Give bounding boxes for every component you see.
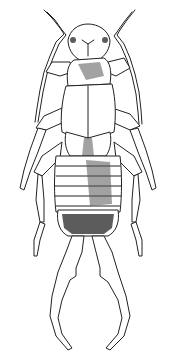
earwig-illustration: earwig illustration (0, 0, 175, 361)
forceps-left (50, 236, 84, 350)
earwig-drawing (0, 0, 175, 361)
head (68, 24, 110, 60)
pronotum (67, 58, 111, 86)
forceps-right (92, 236, 130, 350)
abdomen (55, 156, 122, 236)
elytra (61, 84, 115, 138)
